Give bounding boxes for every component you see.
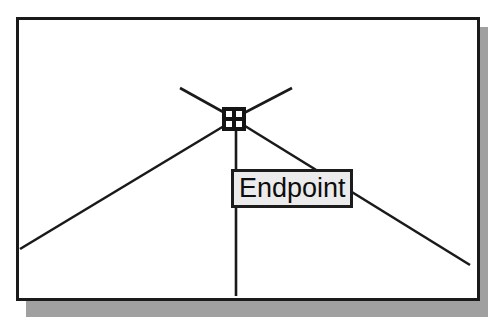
crosshair-horizontal-icon — [225, 117, 243, 121]
drawing-canvas-frame[interactable] — [16, 17, 480, 301]
snap-tooltip: Endpoint — [231, 169, 353, 208]
endpoint-snap-marker-icon — [222, 107, 246, 131]
cad-drawing-screen: Endpoint — [0, 0, 497, 324]
